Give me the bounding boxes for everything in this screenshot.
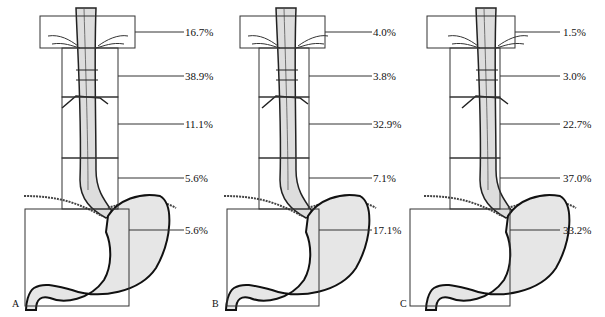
panel-label: C [400,298,407,309]
pct-cardia-stomach: 17.1% [373,224,401,236]
panel-c: 1.5% 3.0% 22.7% 37.0% 33.2% C [400,0,600,317]
pct-lower-thoracic: 37.0% [563,172,591,184]
pct-pharyngoesophageal: 4.0% [373,26,396,38]
esophagus-stomach-illustration [0,0,200,317]
panel-label: B [212,298,219,309]
pct-upper-thoracic: 3.8% [373,70,396,82]
esophagus-stomach-illustration [400,0,600,317]
pct-lower-thoracic: 7.1% [373,172,396,184]
panel-b: 4.0% 3.8% 32.9% 7.1% 17.1% B [200,0,400,317]
pct-middle-thoracic: 32.9% [373,118,401,130]
esophagus-stomach-illustration [200,0,400,317]
pct-pharyngoesophageal: 1.5% [563,26,586,38]
pct-cardia-stomach: 33.2% [563,224,591,236]
panel-label: A [12,298,19,309]
pct-middle-thoracic: 22.7% [563,118,591,130]
pct-upper-thoracic: 3.0% [563,70,586,82]
panel-a: 16.7% 38.9% 11.1% 5.6% 5.6% A [0,0,200,317]
